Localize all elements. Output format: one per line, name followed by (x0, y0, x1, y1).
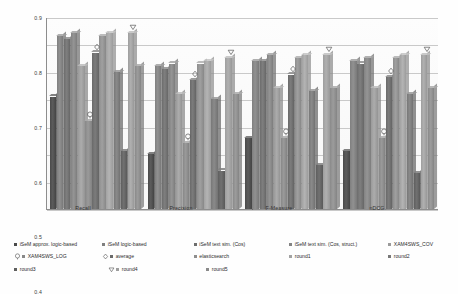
bar-face (371, 88, 377, 209)
bar (330, 88, 336, 209)
bar (78, 66, 84, 209)
legend-item[interactable]: XAM4SWS_COV (388, 242, 444, 247)
bar (267, 55, 273, 209)
bar (245, 138, 251, 209)
bar-side (141, 62, 144, 209)
bar (281, 138, 287, 209)
legend-item[interactable]: iSeM text sim. (Cos) (194, 242, 283, 247)
legend-label: iSeM logic-based (108, 242, 147, 247)
legend-label: XAM4SWS_COV (394, 242, 433, 247)
legend-item[interactable]: round3 (14, 267, 102, 272)
bar (197, 64, 203, 209)
legend-item[interactable]: round4 (108, 266, 200, 273)
legend-item[interactable]: round1 (289, 254, 382, 259)
legend-label: elasticsearch (199, 254, 229, 259)
bar (371, 88, 377, 209)
bar-group (145, 18, 243, 209)
bar-face (155, 66, 161, 209)
bar (343, 151, 349, 209)
legend-item[interactable]: XAM4SWS_LOG (14, 253, 96, 260)
bar (414, 173, 420, 209)
bar (204, 61, 210, 209)
bar (350, 61, 356, 209)
legend-label: iSeM approx. logic-based (20, 242, 77, 247)
bar-group (243, 18, 341, 209)
plot-wrapper: 0.90.80.70.60.50.40.30.2 (12, 8, 446, 213)
bar (50, 97, 56, 209)
legend-label: iSeM text sim. (Cos, struct.) (295, 242, 358, 247)
chart-container: 0.90.80.70.60.50.40.30.2 RecallPrecision… (0, 0, 458, 294)
bar (64, 39, 70, 209)
bar-face (288, 75, 294, 209)
bar (323, 55, 329, 209)
legend-label: iSeM text sim. (Cos) (199, 242, 245, 247)
bar (400, 55, 406, 209)
legend-item[interactable]: iSeM text sim. (Cos, struct.) (289, 242, 382, 247)
legend-item[interactable]: average (102, 253, 188, 260)
bar-face (162, 69, 168, 209)
bar-groups (47, 18, 438, 209)
bar (379, 138, 385, 209)
bar-face (204, 61, 210, 209)
legend-row: round3round4round5 (14, 263, 450, 276)
bar (225, 58, 231, 209)
legend-label: round4 (122, 267, 138, 272)
bar-face (364, 58, 370, 209)
bar-face (78, 66, 84, 209)
legend-swatch (388, 255, 391, 258)
legend-row: XAM4SWS_LOGaverageelasticsearchround1rou… (14, 251, 450, 264)
legend-item[interactable]: elasticsearch (194, 254, 283, 259)
bar-face (245, 138, 251, 209)
legend-swatch (110, 255, 113, 258)
y-axis-tick-label: 0.4 (34, 289, 42, 294)
legend-item[interactable]: round5 (206, 267, 302, 272)
bar-face (281, 138, 287, 209)
legend-item[interactable]: iSeM logic-based (102, 242, 188, 247)
x-axis-category-label: Precision (132, 205, 230, 211)
bar-face (260, 61, 266, 209)
bar (386, 77, 392, 209)
legend-swatch (14, 268, 17, 271)
legend-swatch (206, 268, 209, 271)
legend-item[interactable]: iSeM approx. logic-based (14, 242, 96, 247)
bar-side (239, 89, 242, 209)
x-axis-category-label: Recall (34, 205, 132, 211)
bar-face (106, 33, 112, 209)
bar (85, 121, 91, 209)
bar-face (274, 88, 280, 209)
bar (274, 88, 280, 209)
bar (302, 55, 308, 209)
legend-swatch (289, 255, 292, 258)
bar-face (267, 55, 273, 209)
legend-swatch (388, 243, 391, 246)
bar (121, 151, 127, 209)
bar-face (148, 154, 154, 209)
bar (190, 80, 196, 209)
plot-area: 0.90.80.70.60.50.40.30.2 (46, 18, 438, 210)
bar (309, 91, 315, 209)
bar-face (211, 99, 217, 209)
bar-face (357, 64, 363, 209)
bar (211, 99, 217, 209)
bar (169, 64, 175, 209)
bar (295, 58, 301, 209)
bar-face (218, 171, 224, 209)
legend-label: round5 (212, 267, 228, 272)
bar-side (434, 84, 437, 209)
bar-group (340, 18, 438, 209)
bar-face (183, 143, 189, 209)
y-axis-tick-label: 0.7 (34, 125, 42, 131)
bar (421, 55, 427, 209)
bar-face (302, 55, 308, 209)
y-axis-tick-label: 0.8 (34, 70, 42, 76)
legend-label: round1 (295, 254, 311, 259)
bar-face (343, 151, 349, 209)
bar-face (92, 53, 98, 209)
legend-item[interactable]: round2 (388, 254, 444, 259)
bar-face (225, 58, 231, 209)
bar (57, 36, 63, 209)
bar-face (400, 55, 406, 209)
bar (114, 72, 120, 209)
legend-swatch (194, 243, 197, 246)
bar-face (233, 94, 239, 209)
